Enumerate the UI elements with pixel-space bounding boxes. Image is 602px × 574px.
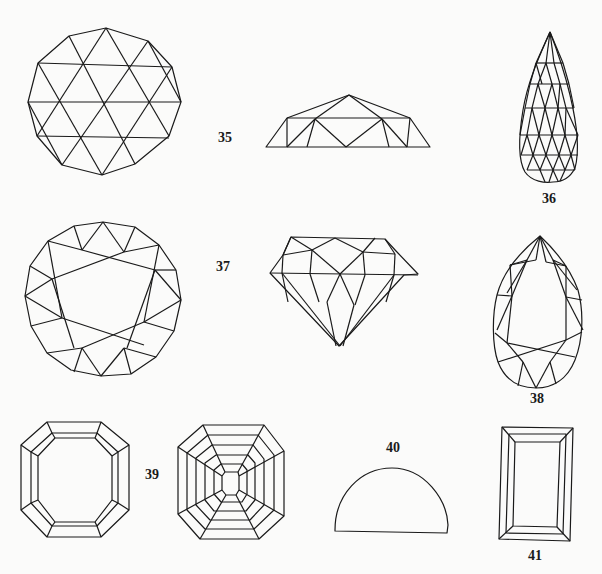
figure-label-41: 41 (528, 548, 542, 564)
figure-label-37: 37 (216, 259, 230, 275)
figure-label-39: 39 (145, 467, 159, 483)
pear-cut (493, 236, 583, 388)
figure-label-36: 36 (542, 191, 556, 207)
rose-cut-side-view (266, 95, 430, 147)
brilliant-cut-top-view (25, 222, 181, 376)
cabochon-side-view (335, 468, 448, 533)
emerald-cut-top-view (21, 422, 129, 537)
scissor-cut-top-view (178, 425, 284, 539)
briolette-cut (519, 32, 578, 182)
brilliant-cut-side-view (270, 237, 418, 346)
figure-label-35: 35 (218, 130, 232, 146)
figure-label-38: 38 (530, 391, 544, 407)
rose-cut-top-view (28, 28, 181, 175)
figure-label-40: 40 (386, 440, 400, 456)
baguette-cut (499, 427, 573, 541)
gem-cuts-diagram (0, 0, 602, 574)
